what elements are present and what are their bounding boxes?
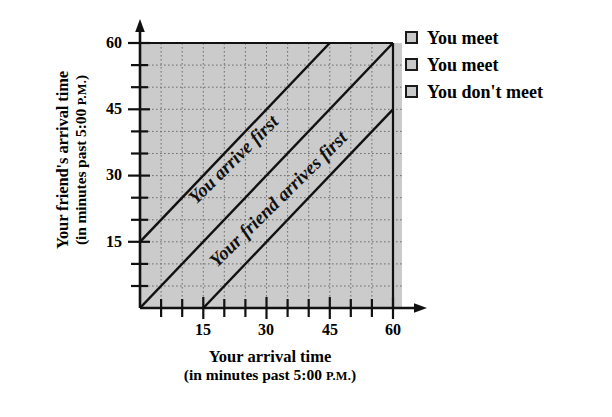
x-axis-title: Your arrival time (in minutes past 5:00 …: [120, 347, 420, 385]
probability-region-chart: You arrive first Your friend arrives fir…: [0, 0, 612, 417]
x-axis-arrow-icon: [414, 303, 427, 313]
legend-label-1: You meet: [427, 56, 498, 74]
y-axis-title-line2-caps: P.M.: [75, 80, 89, 105]
y-tick-label-15: 15: [88, 234, 122, 250]
y-axis-arrow-icon: [135, 19, 145, 32]
x-tick-label-15: 15: [186, 322, 220, 338]
legend-item-2: You don't meet: [405, 78, 605, 105]
x-axis-title-line2-post: ): [351, 366, 356, 383]
chart-legend: You meet You meet You don't meet: [405, 24, 605, 105]
x-axis-title-line2-caps: P.M.: [326, 369, 351, 383]
y-axis-title-line2-pre: (in minutes past 5:00: [72, 105, 89, 245]
x-axis-title-line2-pre: (in minutes past 5:00: [184, 366, 326, 383]
y-axis-title-line2: (in minutes past 5:00 P.M.): [72, 10, 90, 310]
y-tick-label-30: 30: [88, 167, 122, 183]
legend-label-2: You don't meet: [427, 83, 543, 101]
x-axis-title-line2: (in minutes past 5:00 P.M.): [120, 366, 420, 384]
x-axis-title-line1: Your arrival time: [120, 347, 420, 366]
legend-label-0: You meet: [427, 29, 498, 47]
legend-swatch-icon-0: [405, 31, 418, 44]
y-tick-label-45: 45: [88, 101, 122, 117]
x-tick-label-30: 30: [249, 322, 283, 338]
y-tick-label-60: 60: [88, 35, 122, 51]
y-axis-title-line2-post: ): [72, 75, 89, 80]
legend-item-0: You meet: [405, 24, 605, 51]
legend-item-1: You meet: [405, 51, 605, 78]
x-tick-label-45: 45: [313, 322, 347, 338]
y-axis-title-line1: Your friend's arrival time: [54, 10, 72, 310]
legend-swatch-icon-1: [405, 58, 418, 71]
legend-swatch-icon-2: [405, 85, 418, 98]
x-tick-label-60: 60: [376, 322, 410, 338]
